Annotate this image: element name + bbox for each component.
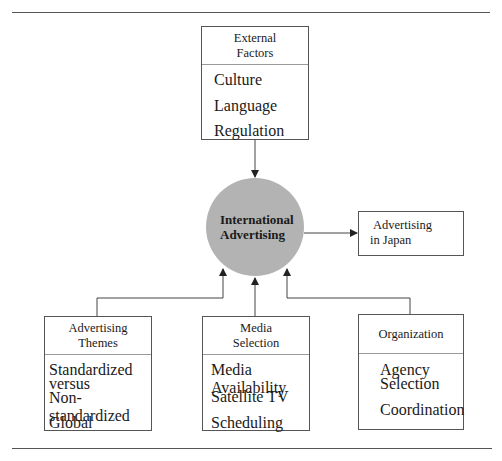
list-item: Scheduling bbox=[211, 414, 283, 432]
arrow-themes-to-center bbox=[97, 269, 223, 316]
list-item: Global bbox=[49, 414, 93, 432]
arrow-organization-to-center bbox=[287, 269, 410, 314]
advertising-in-japan-box: Advertising in Japan bbox=[358, 211, 464, 256]
media-selection-box: Media Selection Media Availability Satel… bbox=[202, 316, 310, 431]
media-selection-title: Media Selection bbox=[203, 317, 309, 355]
center-label: International Advertising bbox=[220, 212, 294, 242]
list-item: Selection bbox=[380, 375, 440, 393]
list-item: Regulation bbox=[214, 122, 284, 140]
external-factors-title: External Factors bbox=[202, 27, 308, 65]
list-item: Culture bbox=[214, 71, 262, 89]
external-factors-box: External Factors Culture Language Regula… bbox=[201, 26, 309, 140]
organization-box: Organization Agency Selection Coordinati… bbox=[358, 314, 464, 430]
japan-label: Advertising in Japan bbox=[370, 218, 432, 248]
organization-title: Organization bbox=[359, 315, 463, 354]
advertising-themes-title: Advertising Themes bbox=[45, 317, 151, 355]
list-item: Satellite TV bbox=[211, 388, 288, 406]
list-item: Language bbox=[214, 97, 277, 115]
list-item: Coordination bbox=[380, 401, 464, 419]
advertising-themes-box: Advertising Themes Standardized versus N… bbox=[44, 316, 152, 431]
